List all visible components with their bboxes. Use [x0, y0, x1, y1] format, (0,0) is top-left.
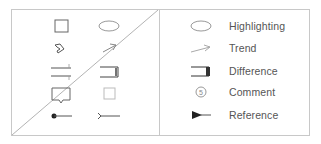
legend-label-highlighting: Highlighting: [229, 20, 285, 32]
bracket-icon: [100, 67, 118, 77]
legend-ellipse-icon: [191, 21, 211, 31]
dot-line-icon: [52, 114, 73, 119]
legend-numbered-circle-icon: 5: [196, 87, 206, 97]
legend-arrow-icon: [191, 45, 210, 52]
light-square-icon: [104, 88, 115, 99]
chevron-shape-icon: [55, 44, 64, 53]
double-line-marker-icon: [51, 64, 71, 80]
square-icon: [55, 20, 68, 32]
diagonal-line: [12, 10, 158, 135]
legend-label-comment: Comment: [229, 86, 275, 98]
arrow-icon: [103, 44, 116, 52]
comment-number: 5: [199, 89, 203, 96]
legend-label-reference: Reference: [229, 109, 278, 121]
callout-icon: [52, 88, 70, 103]
legend-label-difference: Difference: [229, 65, 278, 77]
fork-line-icon: [98, 113, 120, 119]
legend-bracket-icon: [191, 67, 210, 76]
legend-triangle-line-icon: [192, 111, 211, 119]
ellipse-icon: [99, 21, 119, 31]
legend-label-trend: Trend: [229, 42, 257, 54]
